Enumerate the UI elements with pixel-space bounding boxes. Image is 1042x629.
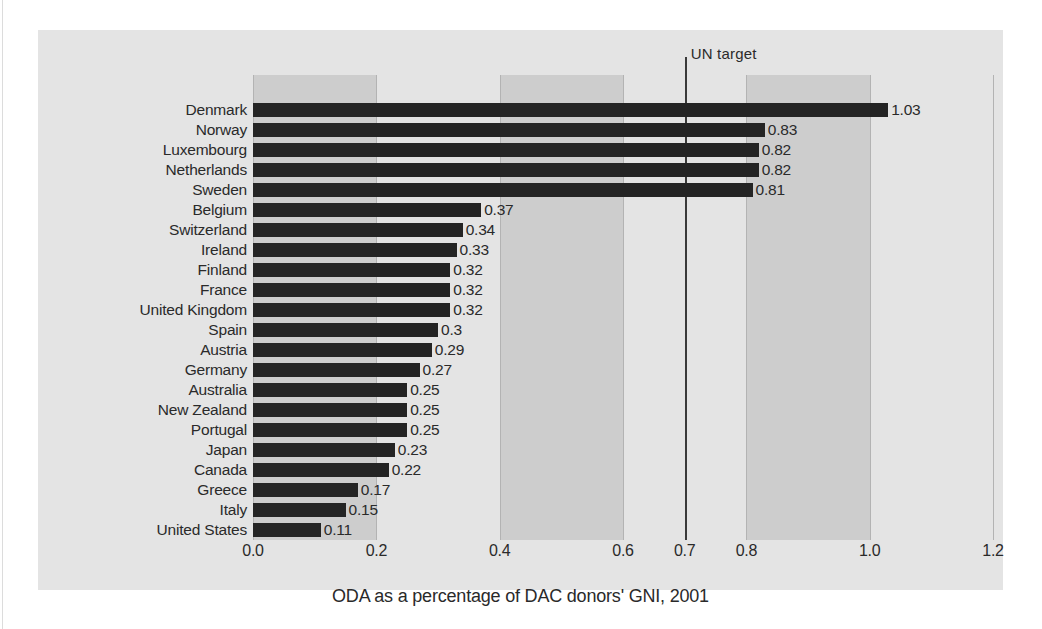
bar-row: Germany0.27 <box>253 360 993 380</box>
category-label: United States <box>157 520 247 540</box>
bar-value-label: 0.32 <box>453 300 482 320</box>
bar-value-label: 0.22 <box>392 460 421 480</box>
bar-row: Sweden0.81 <box>253 180 993 200</box>
bar-value-label: 0.23 <box>398 440 427 460</box>
x-tick-label: 0.0 <box>242 542 263 560</box>
category-label: Austria <box>200 340 247 360</box>
bar <box>253 503 346 517</box>
bar-row: Austria0.29 <box>253 340 993 360</box>
bar-row: United States0.11 <box>253 520 993 540</box>
bar-row: United Kingdom0.32 <box>253 300 993 320</box>
bar-row: Luxembourg0.82 <box>253 140 993 160</box>
bar-row: Netherlands0.82 <box>253 160 993 180</box>
bar-row: Ireland0.33 <box>253 240 993 260</box>
bar-value-label: 0.32 <box>453 280 482 300</box>
bar-value-label: 0.25 <box>410 400 439 420</box>
x-axis: 0.00.20.40.60.70.81.01.2 <box>253 542 993 572</box>
category-label: Spain <box>208 320 247 340</box>
bar <box>253 363 420 377</box>
bar <box>253 463 389 477</box>
bar-row: Spain0.3 <box>253 320 993 340</box>
category-label: Germany <box>185 360 247 380</box>
bar-value-label: 0.3 <box>441 320 462 340</box>
category-label: United Kingdom <box>140 300 248 320</box>
bar-value-label: 0.32 <box>453 260 482 280</box>
x-tick-label: 0.2 <box>366 542 387 560</box>
bar <box>253 223 463 237</box>
bar-value-label: 0.11 <box>324 520 352 540</box>
bar-row: Norway0.83 <box>253 120 993 140</box>
x-tick-label: 1.0 <box>859 542 880 560</box>
bar-value-label: 0.17 <box>361 480 390 500</box>
category-label: Australia <box>188 380 247 400</box>
bar-value-label: 0.15 <box>349 500 378 520</box>
un-target-label: UN target <box>691 45 757 62</box>
bar <box>253 303 450 317</box>
category-label: Luxembourg <box>163 140 247 160</box>
bar <box>253 483 358 497</box>
bar-row: France0.32 <box>253 280 993 300</box>
bar-row: New Zealand0.25 <box>253 400 993 420</box>
bar-row: Canada0.22 <box>253 460 993 480</box>
gridline <box>993 75 994 540</box>
bar-row: Japan0.23 <box>253 440 993 460</box>
category-label: Greece <box>197 480 247 500</box>
bar <box>253 323 438 337</box>
bar <box>253 383 407 397</box>
bar-value-label: 0.37 <box>484 200 513 220</box>
bar-value-label: 0.34 <box>466 220 495 240</box>
bar-row: Portugal0.25 <box>253 420 993 440</box>
category-label: Belgium <box>192 200 247 220</box>
bar-rows: Denmark1.03Norway0.83Luxembourg0.82Nethe… <box>253 100 993 540</box>
bar-row: Belgium0.37 <box>253 200 993 220</box>
x-tick-label: 0.7 <box>674 542 695 560</box>
bar-value-label: 0.25 <box>410 380 439 400</box>
bar-value-label: 0.82 <box>762 140 791 160</box>
category-label: Portugal <box>191 420 247 440</box>
x-tick-label: 0.8 <box>736 542 757 560</box>
x-tick-label: 0.6 <box>612 542 633 560</box>
bar-row: Denmark1.03 <box>253 100 993 120</box>
bar <box>253 143 759 157</box>
category-label: Sweden <box>192 180 247 200</box>
bar <box>253 423 407 437</box>
bar <box>253 283 450 297</box>
category-label: New Zealand <box>158 400 247 420</box>
category-label: Netherlands <box>166 160 247 180</box>
category-label: France <box>200 280 247 300</box>
x-tick-label: 1.2 <box>982 542 1003 560</box>
bar <box>253 523 321 537</box>
bar-row: Greece0.17 <box>253 480 993 500</box>
bar-row: Australia0.25 <box>253 380 993 400</box>
category-label: Finland <box>198 260 247 280</box>
bar <box>253 123 765 137</box>
category-label: Norway <box>196 120 247 140</box>
bar-value-label: 0.81 <box>756 180 785 200</box>
bar-value-label: 1.03 <box>891 100 920 120</box>
x-tick-label: 0.4 <box>489 542 510 560</box>
scan-edge-line <box>2 0 3 629</box>
bar <box>253 443 395 457</box>
category-label: Japan <box>206 440 247 460</box>
figure-panel: UN target Denmark1.03Norway0.83Luxembour… <box>38 30 1003 590</box>
category-label: Canada <box>194 460 247 480</box>
bar-value-label: 0.33 <box>460 240 489 260</box>
bar <box>253 163 759 177</box>
bar <box>253 103 888 117</box>
bar <box>253 183 753 197</box>
category-label: Denmark <box>186 100 247 120</box>
bar <box>253 403 407 417</box>
bar-row: Switzerland0.34 <box>253 220 993 240</box>
bar-value-label: 0.27 <box>423 360 452 380</box>
category-label: Italy <box>220 500 247 520</box>
bar <box>253 343 432 357</box>
bar <box>253 243 457 257</box>
bar-row: Finland0.32 <box>253 260 993 280</box>
bar-value-label: 0.25 <box>410 420 439 440</box>
bar-row: Italy0.15 <box>253 500 993 520</box>
category-label: Switzerland <box>169 220 247 240</box>
bar-value-label: 0.29 <box>435 340 464 360</box>
bar-value-label: 0.82 <box>762 160 791 180</box>
bar <box>253 263 450 277</box>
bar <box>253 203 481 217</box>
